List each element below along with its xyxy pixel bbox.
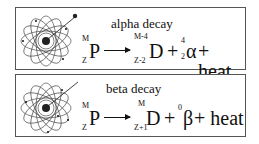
daughter-mass: M-4 — [134, 33, 148, 41]
plus-sign: + — [167, 41, 178, 61]
heat-term: + heat — [194, 108, 244, 128]
plus-sign: + — [164, 108, 175, 128]
particle-symbol: β — [183, 108, 193, 128]
parent-atomic: Z — [82, 57, 87, 65]
panel-title: beta decay — [106, 81, 161, 97]
parent-symbol: P — [89, 108, 100, 128]
reaction-arrow — [104, 50, 130, 51]
alpha-decay-panel: alpha decay M Z P M-4 Z-2 D + 4 2 α + he… — [15, 7, 246, 70]
particle-atomic: 2 — [181, 53, 185, 61]
parent-atomic: Z — [82, 124, 87, 132]
decay-equation: M Z P M-4 Z-2 D + 4 2 α + heat — [78, 35, 244, 67]
daughter-atomic: Z-2 — [134, 57, 146, 65]
particle-symbol: α — [186, 41, 196, 61]
particle-mass: 4 — [181, 37, 185, 45]
decay-equation: M Z P M Z+1 D + 0 β + heat — [78, 102, 244, 134]
daughter-mass: M — [138, 100, 145, 108]
panel-title: alpha decay — [111, 16, 173, 32]
parent-symbol: P — [89, 41, 100, 61]
atom-icon — [18, 76, 78, 136]
daughter-symbol: D — [149, 41, 163, 61]
daughter-symbol: D — [146, 108, 160, 128]
beta-decay-panel: beta decay M Z P M Z+1 D + 0 β + heat — [15, 74, 246, 137]
atom-icon — [18, 9, 78, 69]
reaction-arrow — [104, 117, 130, 118]
particle-mass: 0 — [178, 104, 182, 112]
